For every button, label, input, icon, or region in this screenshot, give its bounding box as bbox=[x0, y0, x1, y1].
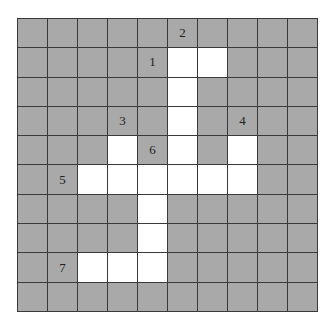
filled-cell bbox=[18, 107, 48, 136]
filled-cell bbox=[78, 224, 108, 253]
open-cell[interactable] bbox=[198, 165, 228, 194]
filled-cell bbox=[108, 195, 138, 224]
filled-cell bbox=[138, 283, 168, 312]
filled-cell bbox=[138, 19, 168, 48]
filled-cell bbox=[78, 283, 108, 312]
filled-cell bbox=[168, 283, 198, 312]
filled-cell bbox=[18, 19, 48, 48]
filled-cell bbox=[18, 253, 48, 282]
filled-cell bbox=[108, 283, 138, 312]
filled-cell: 2 bbox=[168, 19, 198, 48]
open-cell[interactable] bbox=[108, 253, 138, 282]
filled-cell bbox=[228, 78, 258, 107]
filled-cell bbox=[288, 283, 318, 312]
open-cell[interactable] bbox=[138, 253, 168, 282]
filled-cell bbox=[138, 78, 168, 107]
clue-number: 5 bbox=[59, 172, 66, 188]
filled-cell bbox=[18, 136, 48, 165]
filled-cell: 6 bbox=[138, 136, 168, 165]
open-cell[interactable] bbox=[78, 253, 108, 282]
filled-cell bbox=[198, 224, 228, 253]
filled-cell bbox=[288, 253, 318, 282]
filled-cell bbox=[18, 78, 48, 107]
filled-cell bbox=[258, 253, 288, 282]
filled-cell bbox=[78, 136, 108, 165]
filled-cell bbox=[48, 19, 78, 48]
filled-cell bbox=[288, 136, 318, 165]
filled-cell bbox=[258, 48, 288, 77]
filled-cell bbox=[78, 107, 108, 136]
filled-cell bbox=[258, 195, 288, 224]
filled-cell bbox=[18, 165, 48, 194]
filled-cell bbox=[198, 107, 228, 136]
open-cell[interactable] bbox=[168, 48, 198, 77]
filled-cell bbox=[288, 78, 318, 107]
crossword-grid: 2134657 bbox=[17, 18, 318, 312]
filled-cell bbox=[288, 224, 318, 253]
filled-cell: 4 bbox=[228, 107, 258, 136]
filled-cell bbox=[48, 107, 78, 136]
filled-cell bbox=[288, 195, 318, 224]
filled-cell bbox=[258, 283, 288, 312]
filled-cell bbox=[228, 283, 258, 312]
clue-number: 1 bbox=[149, 54, 156, 70]
filled-cell bbox=[198, 283, 228, 312]
filled-cell bbox=[108, 78, 138, 107]
filled-cell bbox=[48, 195, 78, 224]
filled-cell bbox=[18, 48, 48, 77]
filled-cell bbox=[78, 19, 108, 48]
clue-number: 4 bbox=[239, 113, 246, 129]
filled-cell bbox=[198, 19, 228, 48]
filled-cell: 5 bbox=[48, 165, 78, 194]
open-cell[interactable] bbox=[228, 165, 258, 194]
filled-cell bbox=[18, 283, 48, 312]
open-cell[interactable] bbox=[138, 165, 168, 194]
open-cell[interactable] bbox=[168, 136, 198, 165]
open-cell[interactable] bbox=[168, 78, 198, 107]
open-cell[interactable] bbox=[198, 48, 228, 77]
clue-number: 7 bbox=[59, 260, 66, 276]
open-cell[interactable] bbox=[108, 136, 138, 165]
open-cell[interactable] bbox=[78, 165, 108, 194]
filled-cell bbox=[258, 165, 288, 194]
filled-cell bbox=[258, 136, 288, 165]
open-cell[interactable] bbox=[138, 195, 168, 224]
filled-cell bbox=[168, 224, 198, 253]
clue-number: 6 bbox=[149, 142, 156, 158]
open-cell[interactable] bbox=[138, 224, 168, 253]
filled-cell bbox=[198, 195, 228, 224]
filled-cell bbox=[258, 19, 288, 48]
filled-cell: 1 bbox=[138, 48, 168, 77]
open-cell[interactable] bbox=[228, 136, 258, 165]
filled-cell bbox=[48, 136, 78, 165]
filled-cell bbox=[18, 195, 48, 224]
open-cell[interactable] bbox=[168, 165, 198, 194]
filled-cell bbox=[228, 195, 258, 224]
filled-cell bbox=[108, 48, 138, 77]
filled-cell: 7 bbox=[48, 253, 78, 282]
filled-cell bbox=[288, 107, 318, 136]
filled-cell bbox=[168, 253, 198, 282]
filled-cell bbox=[288, 165, 318, 194]
filled-cell bbox=[198, 78, 228, 107]
open-cell[interactable] bbox=[168, 107, 198, 136]
filled-cell bbox=[48, 78, 78, 107]
filled-cell bbox=[48, 283, 78, 312]
filled-cell bbox=[258, 107, 288, 136]
filled-cell bbox=[228, 19, 258, 48]
filled-cell bbox=[228, 48, 258, 77]
clue-number: 2 bbox=[179, 25, 186, 41]
filled-cell bbox=[288, 19, 318, 48]
open-cell[interactable] bbox=[108, 165, 138, 194]
clue-number: 3 bbox=[119, 113, 126, 129]
filled-cell bbox=[258, 78, 288, 107]
filled-cell bbox=[48, 48, 78, 77]
filled-cell bbox=[198, 136, 228, 165]
filled-cell bbox=[168, 195, 198, 224]
filled-cell: 3 bbox=[108, 107, 138, 136]
filled-cell bbox=[18, 224, 48, 253]
filled-cell bbox=[78, 195, 108, 224]
filled-cell bbox=[78, 78, 108, 107]
filled-cell bbox=[198, 253, 228, 282]
filled-cell bbox=[258, 224, 288, 253]
